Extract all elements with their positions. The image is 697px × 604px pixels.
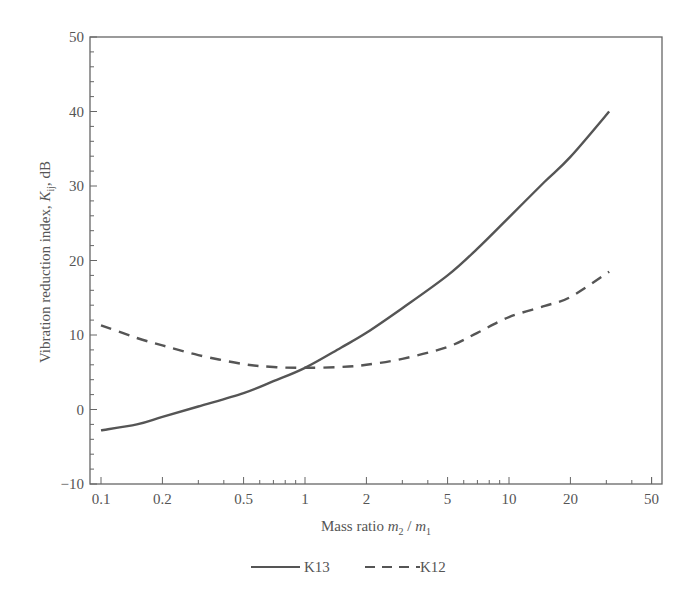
y-tick-label: −10 [61,476,84,492]
plot-frame [90,37,662,484]
legend-label-k13: K13 [304,559,330,575]
vibration-reduction-chart: −1001020304050 0.10.20.5125102050 Mass r… [0,0,697,604]
y-tick-label: 20 [69,253,84,269]
x-tick-label: 50 [644,491,659,507]
x-axis-ticks: 0.10.20.5125102050 [92,477,659,507]
y-tick-label: 0 [77,402,85,418]
y-tick-label: 10 [69,327,84,343]
plot-border [90,37,662,484]
x-tick-label: 2 [363,491,371,507]
x-axis-title: Mass ratio m2 / m1 [321,518,431,537]
legend-item-k13: K13 [251,559,330,575]
series-layer [101,112,609,431]
y-axis-ticks: −1001020304050 [61,29,97,492]
y-tick-label: 30 [69,178,84,194]
x-tick-label: 5 [444,491,452,507]
x-tick-label: 1 [301,491,309,507]
x-tick-label: 0.2 [153,491,172,507]
x-tick-label: 0.5 [234,491,253,507]
legend-label-k12: K12 [420,559,446,575]
y-axis-title: Vibration reduction index, Kij, dB [37,161,56,363]
series-line-k12 [101,272,609,368]
legend-item-k12: K12 [365,559,446,575]
x-tick-label: 20 [563,491,578,507]
y-tick-label: 40 [69,104,84,120]
x-tick-label: 10 [502,491,517,507]
series-line-k13 [101,112,609,431]
legend: K13 K12 [251,559,446,575]
y-tick-label: 50 [69,29,84,45]
x-tick-label: 0.1 [92,491,111,507]
